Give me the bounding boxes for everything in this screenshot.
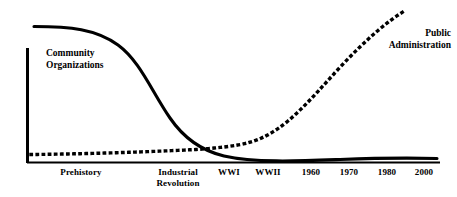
x-tick-label-industrial-revolution: Industrial Revolution xyxy=(143,167,213,189)
x-tick-label-prehistory: Prehistory xyxy=(41,167,121,178)
series-annotation-public-administration: Public Administration xyxy=(389,27,451,51)
series-annotation-public-line1: Public xyxy=(389,27,451,39)
x-tick-label-industrial-line1: Industrial xyxy=(143,167,213,178)
x-tick-label-wwii: WWII xyxy=(243,167,293,178)
series-annotation-community-line1: Community xyxy=(46,47,104,59)
series-annotation-community-organizations: Community Organizations xyxy=(46,47,104,71)
x-tick-label-2000: 2000 xyxy=(401,167,447,178)
series-annotation-community-line2: Organizations xyxy=(46,59,104,71)
series-annotation-public-line2: Administration xyxy=(389,39,451,51)
x-tick-label-industrial-line2: Revolution xyxy=(143,178,213,189)
chart-container: Community Organizations Public Administr… xyxy=(0,0,457,197)
